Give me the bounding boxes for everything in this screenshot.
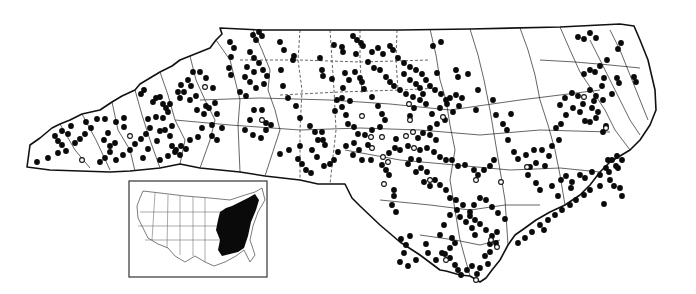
record-dot-filled <box>231 45 237 51</box>
record-dot-filled <box>340 49 346 55</box>
record-dot-filled <box>251 55 257 61</box>
record-dot-filled <box>437 232 443 238</box>
record-dot-open <box>128 134 133 139</box>
record-dot-filled <box>227 39 233 45</box>
record-dot-filled <box>593 93 599 99</box>
record-dot-filled <box>169 123 175 129</box>
record-dot-filled <box>206 105 212 111</box>
record-dot-filled <box>401 71 407 77</box>
record-dot-filled <box>427 183 433 189</box>
record-dot-filled <box>405 143 411 149</box>
record-dot-filled <box>290 57 296 63</box>
record-dot-filled <box>423 241 429 247</box>
record-dot-filled <box>101 137 107 143</box>
record-dot-filled <box>423 77 429 83</box>
record-dot-filled <box>483 197 489 203</box>
record-dot-filled <box>407 64 413 70</box>
record-dot-filled <box>138 136 144 142</box>
record-dot-filled <box>377 67 383 73</box>
record-dot-filled <box>297 115 303 121</box>
record-dot-filled <box>434 121 440 127</box>
record-dot-filled <box>504 127 510 133</box>
record-dot-filled <box>577 172 583 178</box>
record-dot-filled <box>555 193 561 199</box>
record-dot-filled <box>140 155 146 161</box>
record-dot-filled <box>490 97 496 103</box>
record-dot-filled <box>410 94 416 100</box>
record-dot-filled <box>473 107 479 113</box>
record-dot-filled <box>567 202 573 208</box>
record-dot-filled <box>203 75 209 81</box>
record-dot-filled <box>355 131 361 137</box>
record-dot-filled <box>147 125 153 131</box>
record-dot-filled <box>253 37 259 43</box>
record-dot-filled <box>260 67 266 73</box>
record-dot-filled <box>280 83 286 89</box>
record-dot-filled <box>185 77 191 83</box>
record-dot-filled <box>393 209 399 215</box>
record-dot-filled <box>505 137 511 143</box>
record-dot-filled <box>102 155 108 161</box>
record-dot-filled <box>495 210 501 216</box>
record-dot-filled <box>581 192 587 198</box>
record-dot-filled <box>52 133 58 139</box>
record-dot-filled <box>167 133 173 139</box>
record-dot-filled <box>197 69 203 75</box>
record-dot-filled <box>243 93 249 99</box>
record-dot-filled <box>383 167 389 173</box>
record-dot-filled <box>529 229 535 235</box>
record-dot-filled <box>453 67 459 73</box>
record-dot-filled <box>121 115 127 121</box>
record-dot-filled <box>427 132 433 138</box>
record-dot-filled <box>458 272 464 278</box>
record-dot-open <box>386 160 391 165</box>
record-dot-filled <box>500 121 506 127</box>
record-dot-filled <box>423 101 429 107</box>
record-dot-filled <box>157 128 163 134</box>
record-dot-filled <box>569 90 575 96</box>
record-dot-filled <box>77 136 83 142</box>
record-dot-filled <box>303 167 309 173</box>
record-dot-filled <box>143 131 149 137</box>
record-dot-filled <box>386 172 392 178</box>
record-dot-filled <box>88 125 94 131</box>
record-dot-filled <box>393 136 399 142</box>
record-dot-filled <box>322 142 328 148</box>
record-dot-filled <box>455 74 461 80</box>
record-dot-filled <box>619 157 625 163</box>
record-dot-filled <box>359 79 365 85</box>
record-dot-filled <box>263 127 269 133</box>
record-dot-filled <box>383 74 389 80</box>
record-dot-filled <box>591 98 597 104</box>
record-dot-filled <box>443 187 449 193</box>
record-dot-filled <box>157 94 163 100</box>
record-dot-filled <box>604 57 610 63</box>
record-dot-filled <box>397 147 403 153</box>
record-dot-filled <box>491 157 497 163</box>
record-dot-filled <box>442 251 448 257</box>
record-dot-filled <box>107 149 113 155</box>
record-dot-filled <box>437 182 443 188</box>
record-dot-filled <box>405 263 411 269</box>
record-dot-filled <box>582 118 588 124</box>
record-dot-filled <box>286 147 292 153</box>
record-dot-filled <box>369 94 375 100</box>
record-dot-filled <box>587 87 593 93</box>
record-dot-filled <box>268 122 274 128</box>
record-dot-filled <box>72 140 78 146</box>
record-dot-open <box>582 95 587 100</box>
record-dot-filled <box>82 131 88 137</box>
record-dot-filled <box>615 46 621 52</box>
record-dot-filled <box>356 147 362 153</box>
record-dot-filled <box>573 197 579 203</box>
record-dot-filled <box>515 156 521 162</box>
record-dot-filled <box>441 222 447 228</box>
record-dot-filled <box>68 123 74 129</box>
record-dot-filled <box>398 236 404 242</box>
record-dot-filled <box>160 115 166 121</box>
record-dot-filled <box>365 59 371 65</box>
record-dot-filled <box>83 119 89 125</box>
record-dot-filled <box>537 187 543 193</box>
record-dot-filled <box>617 185 623 191</box>
record-dot-filled <box>375 103 381 109</box>
